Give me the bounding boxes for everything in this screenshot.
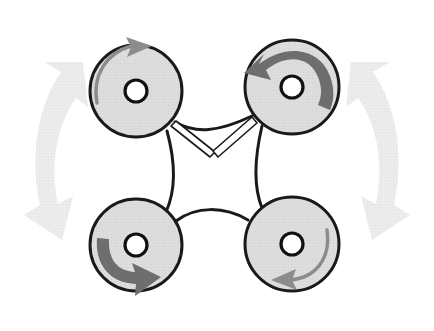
rotor-hub xyxy=(125,234,147,256)
rotor-hub xyxy=(281,76,303,98)
diagram-background xyxy=(0,0,434,331)
rotor-front-right[interactable] xyxy=(244,40,339,134)
rotor-rear-right[interactable] xyxy=(245,197,339,291)
quadrotor-rotation-diagram xyxy=(0,0,434,331)
rotor-hub xyxy=(281,233,303,255)
rotor-hub xyxy=(125,80,147,102)
diagram-canvas xyxy=(0,0,434,331)
